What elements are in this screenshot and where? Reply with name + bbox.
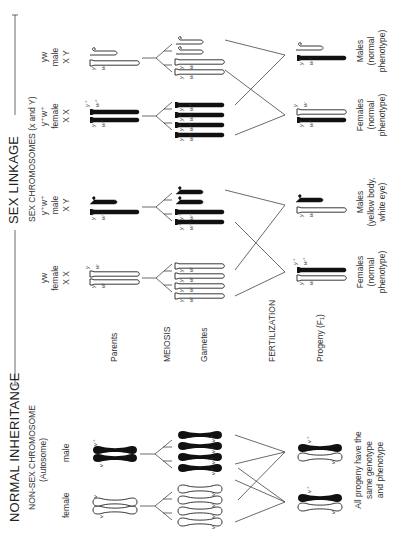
gene-label: w [94,265,101,269]
gene-label: v [210,493,217,496]
normal-parents-chromosomes [93,446,137,514]
inheritance-diagram-page: NORMAL INHERITANCE NON-SEX CHROMOSOME (A… [0,0,405,540]
gene-label: v [210,526,217,529]
cross1-females-phenotype-line2: (normal [367,240,377,304]
gene-label: y⁺ [178,125,185,131]
sex-linkage-subtitle: SEX CHROMOSOMES (x and Y) [28,97,38,222]
gene-label: v [330,461,337,464]
gene-label: w [100,66,107,70]
gene-label: y⁺ [178,214,185,220]
gene-label: y⁺ [178,224,185,230]
stage-meiosis-label: MEIOSIS [163,327,173,362]
normal-progeny-chromosomes [298,444,342,511]
normal-fertilization-lines [235,435,285,522]
cross2-females-phenotype-line3: phenotype) [378,82,388,148]
normal-female-label: female [62,492,72,518]
gene-label: y [178,269,185,272]
stage-parents-label: Parents [110,333,120,362]
gene-label: y⁺ [84,101,91,107]
gene-label: w⁺ [188,104,195,111]
normal-conclusion-line1: All progeny have the [354,410,364,530]
cross1-progeny-chromosomes [296,195,346,281]
cross1-male-chromosomes: X Y [62,185,72,225]
cross1-female-chromosomes: X X [62,258,72,298]
gene-label: v⁺ [306,487,313,493]
gene-label: w⁺ [188,114,195,121]
gene-label: v⁺ [92,440,99,446]
sex-linkage-title: SEX LINKAGE [7,136,22,224]
cross2-male-chromosomes: X Y [62,37,72,77]
normal-inheritance-title: NORMAL INHERITANCE [8,372,23,522]
normal-conclusion-line3: and phenotype [376,410,386,530]
gene-label: w⁺ [100,213,107,220]
gene-label: y⁺ [90,214,97,220]
gene-label: y [298,214,305,217]
gene-label: w⁺ [188,124,195,131]
gene-label: v [98,515,105,518]
normal-male-label: male [62,444,72,462]
cross1-females-phenotype-line3: phenotype) [378,240,388,304]
cross2-female-label: female [51,96,61,136]
gene-label: w [188,75,195,79]
gene-label: w⁺ [188,223,195,230]
cross1-parents-chromosomes [90,197,139,285]
stage-progeny-label: Progeny (F₁) [316,314,326,362]
gene-label: w [188,298,195,302]
gene-label: w⁺ [188,213,195,220]
gene-label: w [188,268,195,272]
gene-label: y [178,299,185,302]
cross1-female-genotype: yw [40,258,50,298]
gene-label: y [292,104,299,107]
gene-label: v⁺ [210,458,217,464]
gene-label: v⁺ [210,436,217,442]
cross2-male-genotype: yw [40,37,50,77]
normal-conclusion-line2: same genotype [365,410,375,530]
cross1-fertilization-lines [225,190,285,296]
normal-meiosis-branches [140,440,172,520]
gene-label: v [210,504,217,507]
stage-fertilization-label: FERTILIZATION [268,300,278,362]
gene-label: w [308,213,315,217]
gene-label: y [178,76,185,79]
cross1-male-genotype: y⁺w⁺ [40,185,50,225]
gene-label: y [178,279,185,282]
cross2-males-phenotype-line2: (normal [367,18,377,84]
cross2-female-genotype: y⁺w⁺ [40,96,50,136]
gene-label: v⁺ [306,437,313,443]
cross1-female-label: female [51,258,61,298]
gene-label: y⁺ [178,115,185,121]
cross2-males-phenotype-line1: Males [356,18,366,84]
gene-label: y [84,266,91,269]
cross2-females-phenotype-line2: (normal [367,82,377,148]
gene-label: y [90,67,97,70]
cross2-male-label: male [51,37,61,77]
gene-label: w [100,284,107,288]
gene-label: v⁺ [210,469,217,475]
cross2-progeny-chromosomes [296,43,346,123]
normal-subtitle-line2: (Autosome) [39,410,49,510]
gene-label: v [92,495,99,498]
cross2-meiosis-branches [142,44,172,130]
gene-label: y⁺ [178,105,185,111]
gene-label: y⁺ [90,121,97,127]
gene-label: v [210,515,217,518]
gene-label: w⁺ [302,258,309,265]
cross1-males-phenotype-line3: white eye) [378,167,388,237]
gene-label: w⁺ [188,134,195,141]
gene-label: w [188,288,195,292]
cross1-meiosis-branches [142,193,172,292]
gene-label: w⁺ [308,58,315,65]
cross1-males-phenotype-line2: (yellow body, [367,167,377,237]
cross2-female-chromosomes: X X [62,96,72,136]
cross1-gametes-chromosomes [175,187,224,299]
normal-gametes-chromosomes [178,431,222,526]
cross2-fertilization-lines [225,40,285,135]
gene-label: w [188,65,195,69]
cross2-males-phenotype-line3: phenotype) [378,18,388,84]
cross2-females-phenotype-line1: Females [356,82,366,148]
gene-label: v [330,511,337,514]
cross2-parents-chromosomes [90,48,139,123]
gene-label: y⁺ [298,121,305,127]
cross1-male-label: male [51,185,61,225]
gene-label: w⁺ [308,120,315,127]
